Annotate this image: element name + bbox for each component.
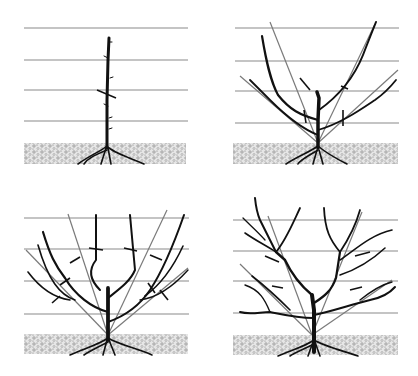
tree [240,198,395,356]
panel-stage-3 [24,210,189,355]
panel-stage-2 [233,22,399,164]
panel-stage-4 [233,198,398,356]
panel-stage-1 [24,28,188,164]
tree [250,22,396,164]
pruning-diagram [0,0,418,376]
